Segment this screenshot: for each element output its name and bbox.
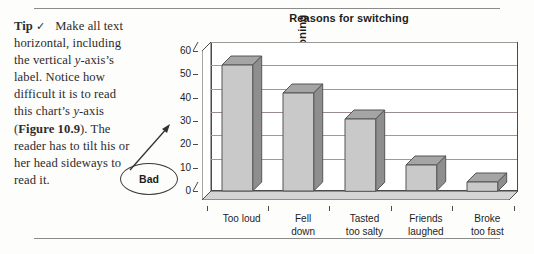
bad-annotation-oval: Bad bbox=[120, 163, 178, 195]
bar-3d-shape bbox=[406, 156, 446, 191]
chart-title: Reasons for switching bbox=[170, 12, 528, 24]
x-axis-label-line: Tasted bbox=[334, 213, 395, 226]
x-axis-label-line: down bbox=[272, 226, 333, 239]
x-tick-mark bbox=[207, 206, 208, 211]
x-tick-mark bbox=[452, 206, 453, 211]
x-axis-label-line: too salty bbox=[334, 226, 395, 239]
x-axis-label-line: too fast bbox=[457, 226, 518, 239]
x-axis-label-line: Broke bbox=[457, 213, 518, 226]
x-axis-label-line: Too loud bbox=[211, 213, 272, 226]
tip-label: Tip bbox=[14, 19, 33, 33]
bar-3d-shape bbox=[467, 173, 507, 191]
bar-column bbox=[283, 84, 314, 191]
tip-body-run: Figure 10.9 bbox=[18, 122, 80, 136]
bar-column bbox=[222, 56, 253, 191]
plot-area bbox=[202, 42, 518, 200]
x-axis-label-line: laughed bbox=[395, 226, 456, 239]
x-axis-label: Broketoo fast bbox=[457, 213, 518, 238]
x-axis-labels: Too loudFelldownTastedtoo saltyFriendsla… bbox=[202, 206, 518, 240]
x-tick-mark bbox=[329, 206, 330, 211]
x-axis-label-line: Friends bbox=[395, 213, 456, 226]
bar-column bbox=[345, 110, 376, 191]
x-tick-mark bbox=[391, 206, 392, 211]
bar-chart: Reasons for switching 0102030405060 % me… bbox=[170, 6, 528, 244]
x-tick-mark bbox=[268, 206, 269, 211]
x-axis-label: Felldown bbox=[272, 213, 333, 238]
x-axis-label: Friendslaughed bbox=[395, 213, 456, 238]
x-axis-label: Too loud bbox=[211, 213, 272, 226]
bar-column bbox=[467, 173, 498, 191]
bar-3d-shape bbox=[283, 84, 323, 191]
grid-line bbox=[211, 42, 517, 43]
bar-3d-shape bbox=[345, 110, 385, 191]
x-axis-label-line: Fell bbox=[272, 213, 333, 226]
bar-column bbox=[406, 156, 437, 191]
bad-annotation-label: Bad bbox=[121, 164, 177, 194]
page-canvas: Tip✓Make all text horizontal, including … bbox=[0, 0, 534, 254]
x-tick-mark bbox=[514, 206, 515, 211]
bar-3d-shape bbox=[222, 56, 262, 191]
check-icon: ✓ bbox=[33, 20, 55, 33]
x-axis-label: Tastedtoo salty bbox=[334, 213, 395, 238]
